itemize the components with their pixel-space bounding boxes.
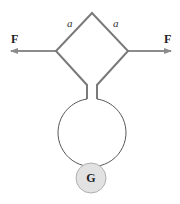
circuit-loop (58, 99, 126, 167)
galvanometer-label: G (86, 171, 95, 185)
force-label-left: F (11, 32, 18, 46)
force-label-right: F (164, 32, 171, 46)
side-label-right: a (113, 17, 119, 29)
diagram-canvas: a a F F G (0, 0, 180, 204)
side-label-left: a (67, 17, 73, 29)
